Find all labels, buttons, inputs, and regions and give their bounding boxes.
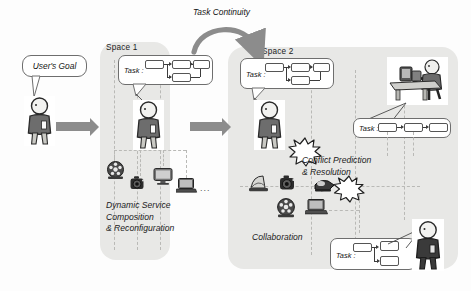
task-node: [353, 243, 372, 252]
task-arrowhead: [377, 259, 380, 263]
device-link: [413, 132, 414, 156]
task-arrowhead: [190, 62, 193, 66]
user-goal-bubble: User's Goal: [22, 55, 87, 77]
avatar-user-in-space2: [254, 100, 285, 150]
device-link: [186, 150, 187, 178]
film-reel-icon: [276, 197, 298, 219]
task-bubble-label: Task :: [336, 251, 355, 260]
film-reel-icon: [106, 160, 126, 180]
task-continuity-label: Task Continuity: [193, 7, 250, 17]
task-arrowhead: [376, 245, 379, 249]
person-at-desk-photo: [387, 57, 448, 105]
task-node: [145, 60, 164, 69]
task-connector: [374, 247, 375, 261]
device-link: [387, 132, 388, 156]
task-connector: [200, 69, 201, 77]
space-1-caption: Dynamic Service Composition & Reconfigur…: [106, 200, 181, 235]
laptop-icon: [305, 198, 329, 218]
device-link: [329, 210, 359, 211]
task-arrowhead: [169, 75, 172, 79]
printer-icon: [248, 174, 270, 194]
flow-arrow-to-space1: [56, 122, 90, 131]
device-link: [359, 195, 360, 233]
task-node: [291, 76, 310, 85]
diagram-canvas: Space 1 Space 2 Task Continuity User's G…: [0, 0, 471, 291]
task-node: [313, 63, 330, 72]
user-goal-label: User's Goal: [33, 61, 77, 71]
task-node: [291, 63, 310, 72]
device-link: [114, 150, 186, 151]
task-arrowhead: [169, 62, 172, 66]
task-connector: [191, 77, 200, 78]
monitor-icon: [153, 167, 175, 187]
task-bubble-label: Task :: [246, 69, 265, 78]
task-node: [193, 60, 210, 69]
burst-icon: [333, 175, 365, 203]
flow-arrow-to-space2: [190, 122, 222, 131]
laptop-icon: [176, 177, 198, 195]
task-arrowhead: [401, 125, 404, 129]
task-node: [265, 63, 284, 72]
task-bubble-label: Task :: [359, 124, 378, 133]
task-connector: [310, 80, 320, 81]
task-bubble-label: Task :: [124, 66, 143, 75]
device-link: [163, 150, 164, 166]
task-node: [380, 256, 399, 266]
task-node: [172, 60, 191, 69]
camera-icon: [129, 173, 149, 193]
task-node: [429, 123, 448, 132]
avatar-user-origin: [24, 96, 55, 146]
camera-icon: [278, 172, 300, 194]
task-connector: [320, 72, 321, 80]
avatar-collaborator: [412, 219, 444, 271]
avatar-user-in-space1: [133, 100, 164, 150]
task-arrowhead: [288, 78, 291, 82]
task-node: [378, 123, 397, 132]
task-continuity-arrow: [186, 12, 274, 60]
task-node: [404, 123, 423, 132]
task-arrowhead: [288, 65, 291, 69]
collaboration-caption: Collaboration: [252, 232, 342, 244]
task-node: [172, 73, 191, 82]
more-devices-ellipsis: ...: [200, 183, 211, 193]
task-arrowhead: [426, 125, 429, 129]
space-1-label: Space 1: [106, 43, 137, 52]
task-arrowhead: [310, 65, 313, 69]
